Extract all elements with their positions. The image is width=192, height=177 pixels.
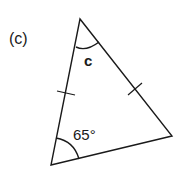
part-label: (c) [9, 30, 28, 47]
equal-side-tick-right [128, 83, 142, 95]
triangle-diagram: (c) c 65° [0, 0, 192, 177]
angle-label-bottom-left: 65° [73, 126, 96, 143]
angle-label-top: c [84, 52, 92, 69]
angle-arc-top [76, 42, 99, 49]
